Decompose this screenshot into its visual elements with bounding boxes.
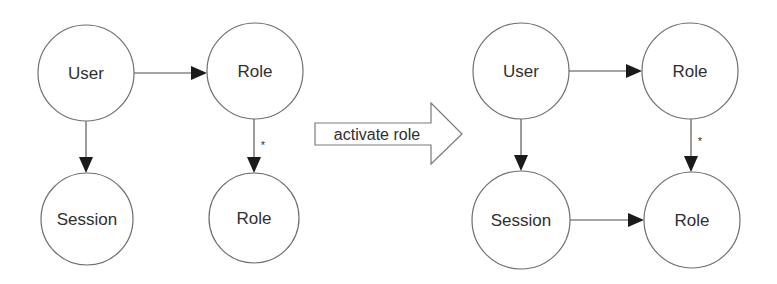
edge-user-to-role_top [569, 64, 642, 78]
arrowhead-icon [628, 213, 644, 227]
node-label: User [503, 62, 539, 81]
node-session: Session [472, 171, 570, 269]
arrowhead-icon [247, 157, 261, 173]
arrowhead-icon [79, 157, 93, 173]
transition-label: activate role [334, 126, 420, 143]
arrowhead-icon [514, 155, 528, 171]
multiplicity-label: * [261, 139, 266, 151]
edge-role_top-to-role_bottom: * [684, 119, 703, 172]
node-session: Session [41, 173, 133, 265]
before-state-diagram: *UserRoleSessionRole [38, 23, 303, 265]
edge-role_top-to-role_bottom: * [247, 119, 266, 173]
arrowhead-icon [626, 64, 642, 78]
node-role_top: Role [642, 23, 738, 119]
node-label: User [68, 64, 104, 83]
node-role_bottom: Role [644, 172, 740, 268]
node-role_top: Role [207, 23, 303, 119]
arrowhead-icon [191, 66, 207, 80]
activate-role-transition: activate role [315, 103, 462, 164]
node-label: Session [491, 211, 551, 230]
edge-user-to-session [514, 119, 528, 171]
edge-session-to-role_bottom [570, 213, 644, 227]
edge-user-to-session [79, 121, 93, 173]
node-label: Role [237, 209, 272, 228]
node-user: User [473, 23, 569, 119]
arrowhead-icon [684, 156, 698, 172]
diagram-canvas: *UserRoleSessionRole activate role *User… [0, 0, 777, 284]
role-activation-diagram: *UserRoleSessionRole activate role *User… [0, 0, 777, 284]
node-label: Role [238, 62, 273, 81]
node-user: User [38, 25, 134, 121]
after-state-diagram: *UserRoleSessionRole [472, 23, 740, 269]
node-label: Role [675, 211, 710, 230]
edge-user-to-role_top [134, 66, 207, 80]
node-role_bottom: Role [209, 173, 299, 263]
node-label: Session [57, 210, 117, 229]
multiplicity-label: * [698, 135, 703, 147]
node-label: Role [673, 62, 708, 81]
